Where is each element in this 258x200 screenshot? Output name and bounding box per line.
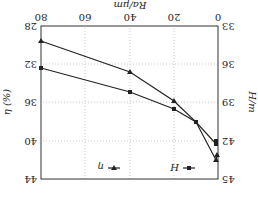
y-tick: 32 — [24, 59, 37, 70]
x-axis-ticks: 0 20 40 60 80 — [35, 12, 222, 23]
y-tick: 28 — [24, 21, 37, 32]
y-tick: 42 — [222, 136, 235, 147]
series-eta — [38, 38, 220, 162]
x-tick: 40 — [124, 12, 137, 23]
y-tick: 39 — [222, 97, 235, 108]
x-axis-label: Ra/μm — [113, 0, 147, 11]
y-tick: 36 — [24, 97, 37, 108]
line-chart: 0 20 40 60 80 Ra/μm 33 36 39 42 45 H/m 2… — [0, 0, 258, 200]
y-left-axis-ticks: 28 32 36 40 44 — [24, 21, 37, 185]
x-tick: 0 — [215, 12, 221, 23]
legend-label: H — [170, 162, 180, 173]
x-tick: 60 — [79, 12, 92, 23]
legend-item-h: H — [170, 162, 195, 173]
chart: 0 20 40 60 80 Ra/μm 33 36 39 42 45 H/m 2… — [0, 0, 258, 200]
grid — [41, 26, 218, 179]
legend-item-eta: η — [98, 162, 120, 173]
y-tick: 40 — [24, 136, 37, 147]
y-tick: 44 — [24, 174, 37, 185]
legend: H η — [98, 162, 195, 173]
plot-frame — [41, 26, 218, 179]
y-right-axis-label: H/m — [247, 90, 258, 113]
y-tick: 33 — [222, 21, 235, 32]
y-tick: 36 — [222, 59, 235, 70]
y-left-axis-label: η (%) — [1, 89, 12, 116]
y-tick: 45 — [222, 174, 235, 185]
series-h — [39, 66, 218, 146]
x-tick: 20 — [168, 12, 181, 23]
y-right-axis-ticks: 33 36 39 42 45 — [222, 21, 235, 185]
legend-label: η — [98, 162, 104, 173]
